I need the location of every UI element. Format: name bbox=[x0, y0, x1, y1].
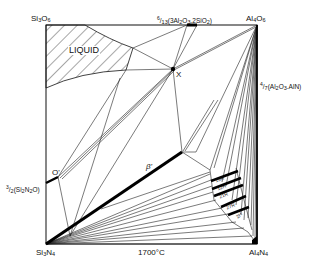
corner-label-si3o6: Si3O6 bbox=[31, 14, 50, 25]
o-prime-composition-label: 3/2(Si2N2O) bbox=[6, 183, 40, 196]
temperature-label: 1700°C bbox=[138, 248, 165, 257]
x-point bbox=[171, 67, 175, 71]
corner-label-al4o6: Al4O6 bbox=[246, 14, 265, 25]
corner-label-si3n4: Si3N4 bbox=[36, 248, 55, 259]
liquid-label: LIQUID bbox=[68, 46, 100, 55]
phase-diagram bbox=[0, 0, 316, 266]
alon-label: 4/7(Al2O3.AlN) bbox=[260, 80, 301, 93]
corner-label-al4n4: Al4N4 bbox=[249, 248, 268, 259]
o-prime-line bbox=[46, 177, 58, 183]
o-prime-label: O' bbox=[52, 168, 60, 177]
beta-prime-label: β' bbox=[146, 162, 152, 171]
x-phase-label: X bbox=[176, 70, 181, 79]
mullite-label: 6/13(3Al2O3.2SiO2) bbox=[157, 14, 212, 27]
